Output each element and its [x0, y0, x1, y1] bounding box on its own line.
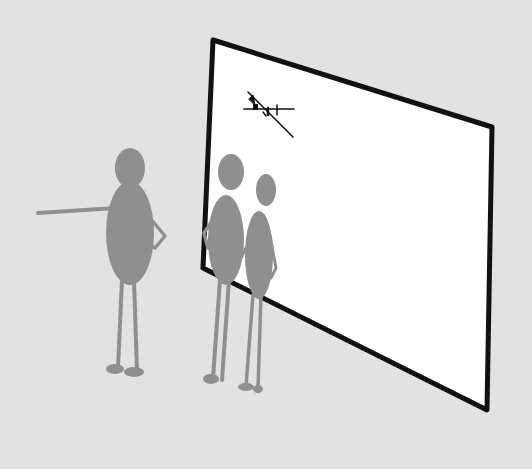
illustration: [0, 0, 532, 469]
